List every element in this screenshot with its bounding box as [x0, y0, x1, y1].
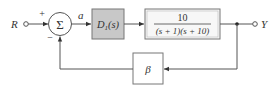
minus-sign: − — [47, 32, 53, 43]
feedback-label-beta: β — [144, 63, 151, 75]
input-terminal — [24, 22, 29, 27]
plus-sign: + — [39, 8, 45, 19]
output-label-y: Y — [261, 18, 269, 30]
plant-denominator: (s + 1)(s + 10) — [156, 26, 210, 36]
sigma-symbol: Σ — [56, 17, 64, 32]
output-terminal — [253, 22, 258, 27]
block-diagram: R Σ + − a D1(s) 10 (s + 1)(s + 10) Y β — [0, 0, 277, 91]
feedback-path-left — [60, 37, 133, 70]
signal-a-label: a — [78, 9, 84, 21]
input-label-r: R — [10, 18, 18, 30]
plant-numerator: 10 — [178, 12, 188, 23]
